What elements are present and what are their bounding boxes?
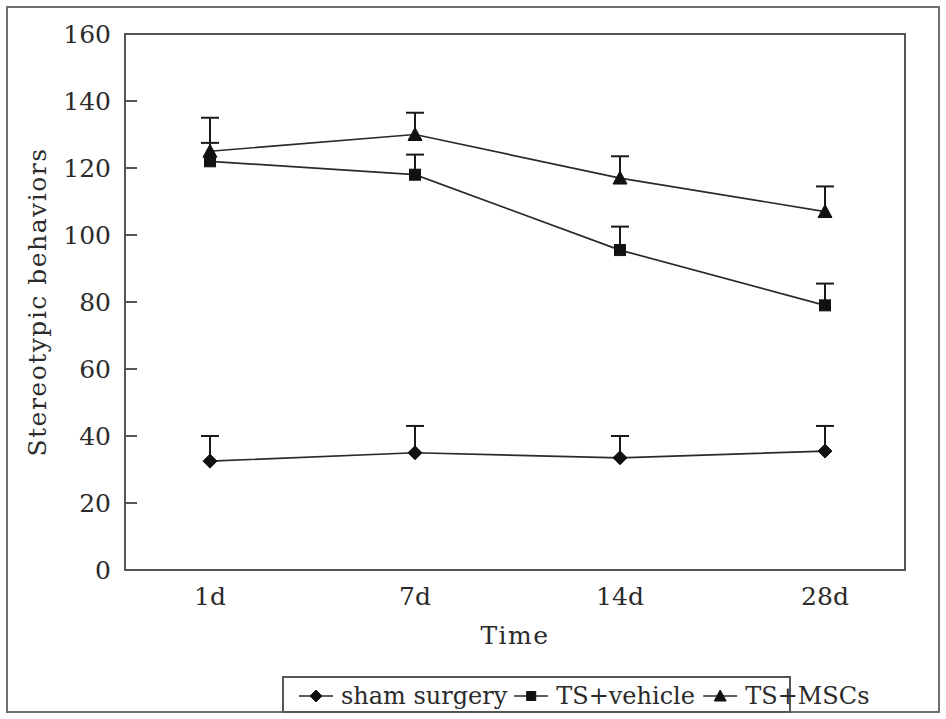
chart-legend: sham surgeryTS+vehicleTS+MSCs — [283, 677, 869, 712]
marker-triangle — [408, 128, 422, 141]
series-line — [210, 451, 825, 461]
y-tick-label-0: 0 — [95, 556, 111, 585]
legend-label: TS+vehicle — [556, 682, 695, 710]
y-tick-label-140: 140 — [63, 87, 111, 116]
x-axis-title: Time — [480, 621, 549, 650]
y-tick-label-160: 160 — [63, 20, 111, 49]
y-tick-label-60: 60 — [79, 355, 111, 384]
figure-container: 020406080100120140160 1d7d14d28d Stereot… — [0, 0, 946, 719]
x-tick-label-14d: 14d — [596, 582, 644, 611]
legend-label: sham surgery — [341, 682, 508, 710]
series-layer — [201, 113, 834, 468]
marker-diamond — [613, 451, 627, 465]
series-ts-mscs — [201, 113, 834, 218]
plot-area-border — [125, 34, 905, 570]
y-axis-tick-labels: 020406080100120140160 — [63, 20, 111, 585]
series-line — [210, 161, 825, 305]
marker-square — [410, 169, 421, 180]
marker-diamond — [408, 446, 422, 460]
marker-square — [820, 300, 831, 311]
x-axis-tick-labels: 1d7d14d28d — [194, 582, 849, 611]
marker-diamond — [818, 444, 832, 458]
y-axis-title: Stereotypic behaviors — [23, 147, 52, 456]
marker-diamond — [203, 454, 217, 468]
x-tick-label-7d: 7d — [399, 582, 431, 611]
y-tick-label-80: 80 — [79, 288, 111, 317]
series-line — [210, 135, 825, 212]
y-axis-ticks — [125, 34, 137, 570]
y-tick-label-20: 20 — [79, 489, 111, 518]
legend-label: TS+MSCs — [745, 682, 869, 710]
line-chart: 020406080100120140160 1d7d14d28d Stereot… — [0, 0, 946, 719]
series-ts-vehicle — [201, 143, 834, 311]
marker-square — [615, 245, 626, 256]
x-tick-label-1d: 1d — [194, 582, 226, 611]
marker-square — [527, 692, 536, 701]
x-tick-label-28d: 28d — [801, 582, 849, 611]
y-tick-label-120: 120 — [63, 154, 111, 183]
legend-items: sham surgeryTS+vehicleTS+MSCs — [299, 682, 869, 710]
y-tick-label-100: 100 — [63, 221, 111, 250]
series-sham-surgery — [201, 426, 834, 468]
y-tick-label-40: 40 — [79, 422, 111, 451]
